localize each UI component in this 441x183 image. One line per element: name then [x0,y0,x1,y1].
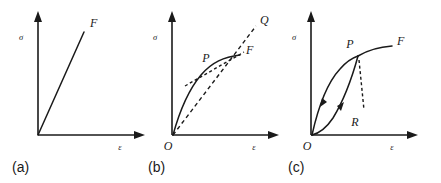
panel-c-loading-arrowhead-icon [320,98,327,107]
panel-a-elastic-line [38,32,84,135]
panel-b-label-F: F [245,43,254,57]
panel-b-stress-strain-curve [173,55,240,135]
stress-strain-figure: σ ε F (a) σ ε O P [0,0,441,183]
figure-canvas: σ ε F (a) σ ε O P [0,0,441,183]
panel-b-caption: (b) [148,159,165,175]
panel-c-x-axis-label: ε [390,142,394,152]
panel-c-x-axis-arrowhead [407,131,418,139]
panel-b-label-Q: Q [260,13,269,27]
panel-b: σ ε O P F Q (b) [148,11,279,175]
panel-a-label-F: F [89,16,98,30]
panel-c-label-R: R [350,115,359,129]
panel-a-x-axis-arrowhead [134,131,145,139]
panel-b-label-P: P [201,51,210,65]
panel-c: σ ε O P F R (c) [288,11,418,175]
panel-b-label-O: O [164,139,173,153]
panel-b-secant-line-OQ [173,26,256,135]
panel-c-caption: (c) [288,159,304,175]
panel-c-label-P: P [345,37,354,51]
panel-b-y-axis-label: σ [153,32,158,42]
panel-a: σ ε F (a) [12,11,145,175]
panel-b-x-axis-arrowhead [268,131,279,139]
panel-c-label-F: F [396,34,405,48]
panel-a-x-axis-label: ε [118,142,122,152]
panel-c-y-axis-label: σ [292,32,297,42]
panel-a-y-axis-arrowhead [34,11,42,22]
panel-c-continuation-to-F [358,46,392,56]
panel-c-y-axis-arrowhead [307,11,315,22]
panel-c-label-O: O [303,139,312,153]
panel-a-caption: (a) [12,159,29,175]
panel-b-x-axis-label: ε [252,142,256,152]
panel-a-y-axis-label: σ [19,32,24,42]
panel-c-elastic-unload-dashed [359,60,364,110]
panel-b-y-axis-arrowhead [168,11,176,22]
